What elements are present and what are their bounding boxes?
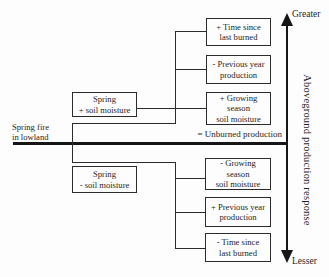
- axis-arrow-shaft: [286, 22, 289, 256]
- axis-arrow-down-icon: [281, 250, 293, 263]
- axis-lesser-label: Lesser: [292, 256, 317, 266]
- fire-production-response-diagram: Spring fire in lowland Spring + soil moi…: [0, 0, 329, 277]
- node-plus-time-since-last-burned: + Time since last burned: [206, 18, 271, 46]
- trunk-line: [13, 142, 286, 145]
- lower-horizontal-connector: [72, 162, 176, 163]
- node-minus-time-since-last-burned: - Time since last burned: [205, 233, 271, 262]
- node-plus-previous-year-production: + Previous year production: [205, 197, 271, 227]
- upper-branch-line-3: [136, 108, 206, 109]
- upper-branch-line-1: [175, 31, 206, 32]
- lower-branch-line-1: [175, 178, 205, 179]
- node-plus-growing-season-soil-moisture: + Growing season soil moisture: [206, 92, 271, 125]
- upper-branch-line-2: [175, 69, 206, 70]
- left-vertical-connector: [72, 123, 73, 163]
- unburned-production-label: = Unburned production: [178, 129, 282, 139]
- node-spring-plus-soil-moisture: Spring + soil moisture: [72, 92, 137, 117]
- node-minus-growing-season-soil-moisture: - Growing season soil moisture: [205, 158, 271, 190]
- root-node-label: Spring fire in lowland: [12, 122, 68, 142]
- upper-branch-spine: [175, 31, 176, 124]
- lower-branch-spine: [175, 162, 176, 249]
- lower-branch-line-3: [175, 248, 205, 249]
- lower-branch-line-2: [175, 212, 205, 213]
- axis-greater-label: Greater: [292, 9, 320, 19]
- upper-horizontal-connector: [72, 123, 176, 124]
- node-minus-previous-year-production: - Previous year production: [206, 55, 271, 84]
- axis-title: Aboveground production response: [299, 50, 313, 250]
- node-spring-minus-soil-moisture: Spring - soil moisture: [72, 166, 137, 193]
